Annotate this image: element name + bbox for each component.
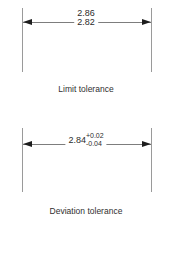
extension-line-right (151, 128, 152, 192)
arrowhead-left-icon (23, 141, 32, 147)
extension-line-left (22, 128, 23, 192)
deviation-stack: +0.02 -0.04 (86, 132, 104, 148)
upper-deviation-value: +0.02 (86, 132, 104, 140)
tolerance-notation-diagram: 2.86 2.82 Limit tolerance 2.84 +0.02 -0.… (0, 0, 172, 273)
extension-line-left (22, 8, 23, 72)
limit-dimension-text: 2.86 2.82 (74, 9, 98, 27)
arrowhead-right-icon (142, 141, 151, 147)
deviation-tolerance-caption: Deviation tolerance (0, 206, 172, 216)
lower-limit-value: 2.82 (77, 18, 95, 27)
deviation-tolerance-figure: 2.84 +0.02 -0.04 Deviation tolerance (0, 120, 172, 273)
limit-tolerance-figure: 2.86 2.82 Limit tolerance (0, 0, 172, 120)
arrowhead-left-icon (23, 19, 32, 25)
extension-line-right (151, 8, 152, 72)
deviation-dimension-text: 2.84 +0.02 -0.04 (65, 132, 106, 149)
arrowhead-right-icon (142, 19, 151, 25)
limit-tolerance-caption: Limit tolerance (0, 84, 172, 94)
nominal-value: 2.84 (68, 136, 86, 145)
lower-deviation-value: -0.04 (86, 140, 104, 148)
